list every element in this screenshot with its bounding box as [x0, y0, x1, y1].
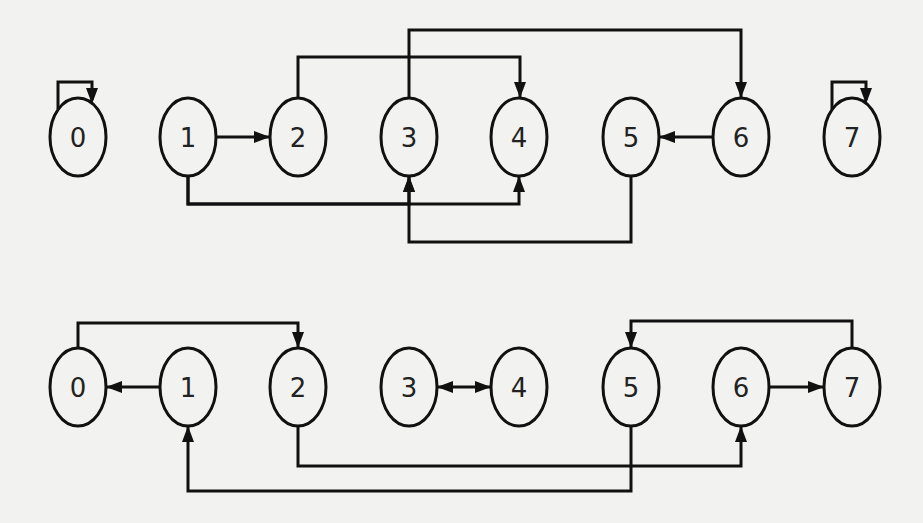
node-label: 2: [290, 123, 307, 153]
node-bottom-4: 4: [491, 348, 547, 426]
node-top-2: 2: [270, 98, 326, 176]
node-label: 0: [70, 373, 87, 403]
edge-bottom-0-to-2: [78, 323, 304, 348]
node-label: 0: [70, 123, 87, 153]
arrowhead-icon: [106, 381, 122, 393]
arrowhead-icon: [513, 176, 525, 192]
edge-top-6-to-5: [659, 131, 713, 143]
arrowhead-icon: [625, 332, 637, 348]
arrowhead-icon: [514, 82, 526, 98]
node-label: 5: [623, 373, 640, 403]
node-bottom-6: 6: [713, 348, 769, 426]
node-label: 4: [511, 373, 528, 403]
edge-bottom-5-to-1: [182, 426, 631, 491]
arrowhead-icon: [659, 131, 675, 143]
arrowhead-icon: [182, 426, 194, 442]
edge-bottom-7-to-5: [625, 321, 852, 348]
arrowhead-icon: [292, 332, 304, 348]
edge-top-3-to-6: [409, 30, 747, 98]
edge-bottom-6-to-7: [769, 381, 824, 393]
edge-top-1-to-3: [188, 176, 415, 204]
node-top-5: 5: [603, 98, 659, 176]
arrowhead-icon: [254, 131, 270, 143]
edge-bottom-2-to-6: [298, 426, 747, 466]
node-label: 4: [511, 123, 528, 153]
graph-diagram: 0123456701234567: [0, 0, 923, 523]
node-bottom-0: 0: [50, 348, 106, 426]
node-label: 7: [844, 373, 861, 403]
node-label: 3: [401, 373, 418, 403]
node-bottom-7: 7: [824, 348, 880, 426]
node-label: 5: [623, 123, 640, 153]
node-label: 1: [180, 123, 197, 153]
node-top-0: 0: [50, 98, 106, 176]
arrowhead-icon: [475, 381, 491, 393]
node-label: 6: [733, 373, 750, 403]
node-label: 2: [290, 373, 307, 403]
node-bottom-2: 2: [270, 348, 326, 426]
node-bottom-5: 5: [603, 348, 659, 426]
arrowhead-icon: [403, 176, 415, 192]
edge-bottom-1-to-0: [106, 381, 160, 393]
node-top-3: 3: [381, 98, 437, 176]
node-label: 1: [180, 373, 197, 403]
edge-top-2-to-4: [298, 57, 526, 98]
node-label: 7: [844, 123, 861, 153]
arrowhead-icon: [735, 426, 747, 442]
arrowhead-icon: [437, 381, 453, 393]
node-top-4: 4: [491, 98, 547, 176]
edge-top-1-to-2: [216, 131, 270, 143]
arrowhead-icon: [808, 381, 824, 393]
node-top-1: 1: [160, 98, 216, 176]
node-top-6: 6: [713, 98, 769, 176]
arrowhead-icon: [735, 82, 747, 98]
edge-bottom-3-to-4: [437, 381, 491, 393]
node-bottom-3: 3: [381, 348, 437, 426]
edge-top-1-to-4: [188, 176, 525, 204]
nodes-layer: 0123456701234567: [50, 98, 880, 426]
node-bottom-1: 1: [160, 348, 216, 426]
node-label: 3: [401, 123, 418, 153]
node-top-7: 7: [824, 98, 880, 176]
node-label: 6: [733, 123, 750, 153]
